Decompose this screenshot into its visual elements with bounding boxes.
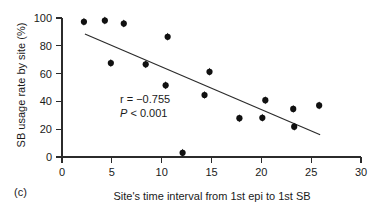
x-tick-label: 30 [355,166,367,178]
y-tick-label: 0 [46,151,52,163]
data-point-marker [122,20,126,28]
y-tick-label: 60 [40,68,52,80]
data-point-marker [180,149,184,157]
data-points-group [81,17,322,157]
y-tick-label: 20 [40,123,52,135]
x-axis-tick-labels: 0 5 10 15 20 25 30 [59,166,367,178]
y-axis-ticks [56,18,62,157]
data-point-marker [103,17,107,25]
y-axis-title: SB usage rate by site (%) [12,10,30,160]
data-point-marker [165,33,169,41]
data-point-marker [291,105,295,113]
data-point-marker [163,81,167,89]
x-tick-label: 15 [205,166,217,178]
x-tick-label: 20 [255,166,267,178]
x-axis-title: Site's time interval from 1st epi to 1st… [62,190,362,202]
x-tick-label: 5 [109,166,115,178]
x-axis-ticks [62,157,361,163]
p-value: P < 0.001 [120,106,170,120]
data-point-marker [144,60,148,68]
data-point-marker [260,114,264,122]
y-tick-label: 40 [40,95,52,107]
data-point-marker [207,68,211,76]
y-tick-label: 100 [34,12,52,24]
x-tick-label: 25 [305,166,317,178]
data-point-marker [202,91,206,99]
correlation-value: r = −0.755 [120,92,170,106]
data-point-marker [237,114,241,122]
y-axis-tick-labels: 0 20 40 60 80 100 [34,12,52,163]
statistics-annotation: r = −0.755 P < 0.001 [120,92,170,120]
p-comparison: < 0.001 [127,107,167,119]
data-point-marker [263,96,267,104]
y-tick-label: 80 [40,40,52,52]
plot-canvas: 0 20 40 60 80 100 0 5 10 15 20 25 30 [0,0,382,213]
x-tick-label: 10 [156,166,168,178]
data-point-marker [82,18,86,26]
x-tick-label: 0 [59,166,65,178]
scatter-plot-figure: 0 20 40 60 80 100 0 5 10 15 20 25 30 [0,0,382,213]
data-point-marker [109,59,113,67]
panel-label: (c) [14,186,27,198]
data-point-marker [317,101,321,109]
